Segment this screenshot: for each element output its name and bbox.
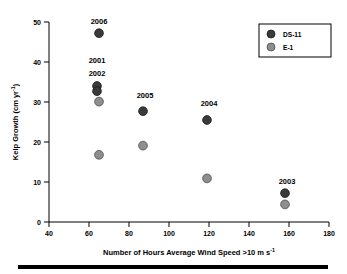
data-point-e1-2001[interactable] (95, 97, 104, 106)
y-tick-label: 40 (33, 59, 41, 66)
data-point-e1-2003[interactable] (281, 200, 290, 209)
annotation-2002: 2002 (89, 69, 106, 78)
x-tick-label: 160 (283, 230, 295, 237)
data-point-ds11-2001[interactable] (93, 87, 102, 96)
data-point-ds11-2004[interactable] (203, 116, 212, 125)
x-tick-label: 80 (125, 230, 133, 237)
x-tick-label: 40 (45, 230, 53, 237)
y-tick-label: 30 (33, 99, 41, 106)
legend-label-ds-11: DS-11 (283, 31, 302, 38)
x-tick-label: 100 (163, 230, 175, 237)
data-point-e1-2005[interactable] (139, 141, 148, 150)
data-point-e1-2002[interactable] (95, 150, 104, 159)
bottom-divider-rule (18, 265, 328, 269)
scatter-plot-canvas: 0 10 20 30 40 50 40 60 80 100 120 140 16 (0, 0, 347, 274)
annotation-2005: 2005 (137, 91, 154, 100)
legend-marker-ds-11-icon (267, 30, 275, 38)
x-axis-title-main: Number of Hours Average Wind Speed >10 m… (103, 248, 270, 257)
x-tick-label: 120 (203, 230, 215, 237)
annotation-2006: 2006 (91, 17, 108, 26)
data-point-ds11-2003[interactable] (281, 189, 290, 198)
y-tick-label: 20 (33, 139, 41, 146)
x-tick-label: 60 (85, 230, 93, 237)
annotation-2003: 2003 (279, 177, 296, 186)
data-point-ds11-2005[interactable] (139, 107, 148, 116)
data-point-e1-2004[interactable] (203, 174, 212, 183)
data-point-ds11-2006[interactable] (95, 29, 104, 38)
x-axis-title-superscript: -1 (270, 247, 275, 253)
x-tick-label: 180 (323, 230, 335, 237)
chart-legend: DS-11 E-1 (259, 24, 331, 57)
legend-box (259, 24, 331, 57)
y-tick-label: 10 (33, 179, 41, 186)
y-axis-title: Kelp Growth (cm yr-1) (10, 83, 20, 160)
y-tick-label: 0 (37, 219, 41, 226)
y-tick-label: 50 (33, 19, 41, 26)
legend-label-e-1: E-1 (283, 44, 294, 51)
y-axis-title-main: Kelp Growth (cm yr (11, 91, 20, 160)
annotation-2001: 2001 (89, 56, 106, 65)
kelp-growth-scatter-figure: 0 10 20 30 40 50 40 60 80 100 120 140 16 (0, 0, 347, 274)
x-axis-title: Number of Hours Average Wind Speed >10 m… (103, 247, 275, 257)
x-tick-label: 140 (243, 230, 255, 237)
legend-marker-e-1-icon (267, 43, 275, 51)
annotation-2004: 2004 (201, 99, 219, 108)
